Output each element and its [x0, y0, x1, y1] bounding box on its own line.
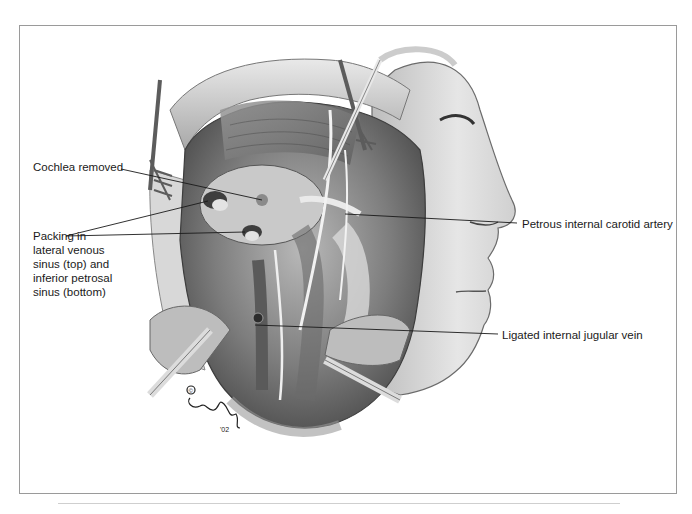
label-line: sinus (bottom) [33, 285, 153, 299]
label-line: sinus (top) and [33, 257, 153, 271]
label-cochlea-removed: Cochlea removed [33, 160, 123, 174]
label-jugular-vein: Ligated internal jugular vein [502, 328, 643, 342]
signature-year: '02 [220, 426, 229, 433]
label-packing-sinus: Packing in lateral venous sinus (top) an… [33, 229, 153, 299]
label-line: Packing in [33, 229, 153, 243]
label-line: lateral venous [33, 243, 153, 257]
copyright-mark: © [189, 388, 194, 394]
label-line: inferior petrosal [33, 271, 153, 285]
label-petrous-carotid: Petrous internal carotid artery [522, 217, 673, 231]
